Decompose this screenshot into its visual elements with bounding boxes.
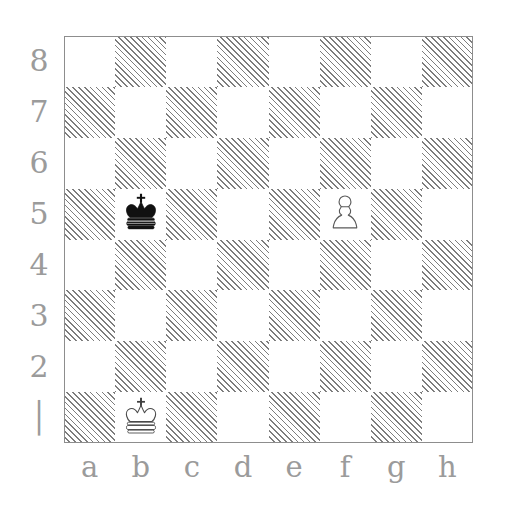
- square-a6[interactable]: [64, 138, 115, 189]
- square-h3[interactable]: [422, 290, 473, 341]
- square-b3[interactable]: [115, 290, 166, 341]
- square-e8[interactable]: [269, 36, 320, 87]
- square-c7[interactable]: [166, 87, 217, 138]
- square-a4[interactable]: [64, 240, 115, 291]
- square-f6[interactable]: [320, 138, 371, 189]
- file-label-d: d: [217, 444, 268, 490]
- file-label-b: b: [115, 444, 166, 490]
- file-label-a: a: [64, 444, 115, 490]
- square-g4[interactable]: [371, 240, 422, 291]
- square-g8[interactable]: [371, 36, 422, 87]
- square-h6[interactable]: [422, 138, 473, 189]
- rank-label-3: 3: [20, 290, 58, 341]
- chess-diagram: 8 7 6 5 4 3 2 │: [0, 0, 509, 506]
- piece-white-king-b1[interactable]: [115, 392, 166, 443]
- square-b7[interactable]: [115, 87, 166, 138]
- square-h4[interactable]: [422, 240, 473, 291]
- square-c8[interactable]: [166, 36, 217, 87]
- square-f1[interactable]: [320, 392, 371, 443]
- rank-label-7: 7: [20, 87, 58, 138]
- square-f3[interactable]: [320, 290, 371, 341]
- white-pawn-icon: [323, 192, 367, 236]
- white-king-icon: [119, 396, 163, 440]
- square-e3[interactable]: [269, 290, 320, 341]
- square-d3[interactable]: [217, 290, 268, 341]
- square-d6[interactable]: [217, 138, 268, 189]
- square-b6[interactable]: [115, 138, 166, 189]
- square-h2[interactable]: [422, 341, 473, 392]
- square-g3[interactable]: [371, 290, 422, 341]
- square-b2[interactable]: [115, 341, 166, 392]
- square-e5[interactable]: [269, 189, 320, 240]
- square-c3[interactable]: [166, 290, 217, 341]
- square-h5[interactable]: [422, 189, 473, 240]
- square-e1[interactable]: [269, 392, 320, 443]
- rank-label-6: 6: [20, 138, 58, 189]
- square-d2[interactable]: [217, 341, 268, 392]
- rank-labels: 8 7 6 5 4 3 2 │: [20, 36, 58, 443]
- square-f7[interactable]: [320, 87, 371, 138]
- square-d4[interactable]: [217, 240, 268, 291]
- square-c5[interactable]: [166, 189, 217, 240]
- file-labels: a b c d e f g h: [64, 444, 473, 490]
- rank-label-4: 4: [20, 240, 58, 291]
- square-g7[interactable]: [371, 87, 422, 138]
- black-king-icon: [119, 192, 163, 236]
- square-d1[interactable]: [217, 392, 268, 443]
- square-b4[interactable]: [115, 240, 166, 291]
- square-h8[interactable]: [422, 36, 473, 87]
- piece-white-pawn-f5[interactable]: [320, 189, 371, 240]
- square-f4[interactable]: [320, 240, 371, 291]
- square-a3[interactable]: [64, 290, 115, 341]
- square-g2[interactable]: [371, 341, 422, 392]
- square-e2[interactable]: [269, 341, 320, 392]
- rank-label-8: 8: [20, 36, 58, 87]
- square-e7[interactable]: [269, 87, 320, 138]
- square-a1[interactable]: [64, 392, 115, 443]
- square-f2[interactable]: [320, 341, 371, 392]
- square-g6[interactable]: [371, 138, 422, 189]
- square-c4[interactable]: [166, 240, 217, 291]
- file-label-g: g: [371, 444, 422, 490]
- rank-label-2: 2: [20, 341, 58, 392]
- square-c6[interactable]: [166, 138, 217, 189]
- square-h7[interactable]: [422, 87, 473, 138]
- square-c1[interactable]: [166, 392, 217, 443]
- square-d7[interactable]: [217, 87, 268, 138]
- square-h1[interactable]: [422, 392, 473, 443]
- piece-black-king-b5[interactable]: [115, 189, 166, 240]
- square-d8[interactable]: [217, 36, 268, 87]
- square-a7[interactable]: [64, 87, 115, 138]
- chess-board: [64, 36, 473, 443]
- square-a2[interactable]: [64, 341, 115, 392]
- square-e4[interactable]: [269, 240, 320, 291]
- square-f8[interactable]: [320, 36, 371, 87]
- file-label-h: h: [422, 444, 473, 490]
- square-g5[interactable]: [371, 189, 422, 240]
- file-label-c: c: [166, 444, 217, 490]
- file-label-f: f: [320, 444, 371, 490]
- rank-label-1: │: [20, 392, 58, 443]
- rank-label-5: 5: [20, 189, 58, 240]
- square-g1[interactable]: [371, 392, 422, 443]
- square-a8[interactable]: [64, 36, 115, 87]
- square-c2[interactable]: [166, 341, 217, 392]
- square-b8[interactable]: [115, 36, 166, 87]
- square-d5[interactable]: [217, 189, 268, 240]
- square-e6[interactable]: [269, 138, 320, 189]
- file-label-e: e: [269, 444, 320, 490]
- square-a5[interactable]: [64, 189, 115, 240]
